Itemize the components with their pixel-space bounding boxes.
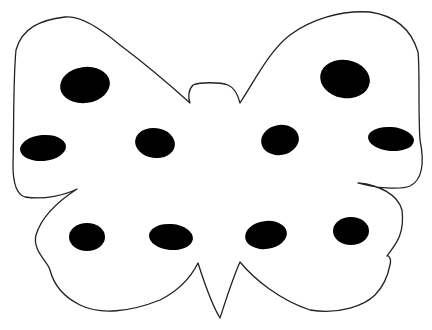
spot-upper-right-large — [317, 56, 373, 102]
spot-left-inner — [133, 125, 177, 160]
spot-left-edge — [19, 133, 67, 163]
spot-right-edge — [367, 125, 415, 153]
spot-right-inner — [259, 122, 302, 158]
spot-upper-left-large — [58, 64, 113, 107]
spot-lower-right-outer — [333, 217, 369, 245]
butterfly-illustration — [0, 0, 432, 330]
spot-lower-right-inner — [243, 218, 288, 252]
spot-lower-left-inner — [148, 222, 194, 252]
wing-spots — [19, 56, 415, 252]
butterfly-outline — [13, 12, 422, 318]
caption-text — [4, 322, 428, 330]
spot-lower-left-outer — [69, 223, 105, 251]
